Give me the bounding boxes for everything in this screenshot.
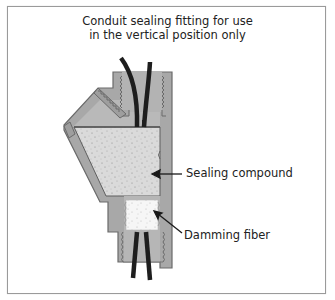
conduit-fitting-illustration <box>0 0 335 300</box>
sealing-compound-label: Sealing compound <box>186 166 293 180</box>
damming-fiber-label: Damming fiber <box>184 228 270 242</box>
damming-fiber-region <box>126 200 158 230</box>
